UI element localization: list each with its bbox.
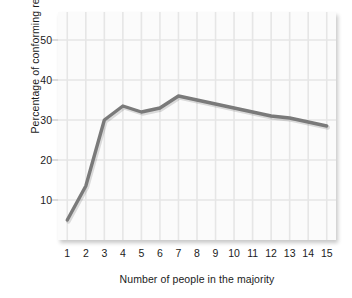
y-axis-tick-mark <box>52 80 58 81</box>
x-axis-tick-label: 15 <box>321 247 333 259</box>
x-axis-tick-label: 3 <box>101 247 107 259</box>
x-axis-tick-label: 10 <box>228 247 240 259</box>
x-axis-tick-label: 2 <box>83 247 89 259</box>
y-axis-tick-mark <box>52 200 58 201</box>
y-axis-tick-label: 10 <box>40 194 52 206</box>
x-axis-tick-label: 11 <box>247 247 258 259</box>
y-axis-tick-label: 20 <box>40 154 52 166</box>
y-axis-tick-label: 40 <box>40 74 52 86</box>
x-axis-tick-label: 8 <box>194 247 200 259</box>
plot-area <box>58 12 336 240</box>
plot-inner <box>58 12 336 240</box>
x-axis-tick-label: 9 <box>213 247 219 259</box>
y-axis-tick-mark <box>52 120 58 121</box>
y-axis-tick-label: 30 <box>40 114 52 126</box>
y-axis-tick-label: 50 <box>40 34 52 46</box>
x-axis-tick-label: 5 <box>138 247 144 259</box>
x-axis-tick-label: 14 <box>302 247 314 259</box>
x-axis-tick-label: 13 <box>284 247 296 259</box>
x-axis-tick-label: 1 <box>64 247 70 259</box>
y-axis-tick-column: 1020304050 <box>26 0 52 298</box>
chart-svg <box>58 12 336 240</box>
x-axis-tick-label: 12 <box>265 247 277 259</box>
y-axis-tick-mark <box>52 40 58 41</box>
y-axis-tick-mark <box>52 160 58 161</box>
conformity-line-chart: Percentage of conforming responses 10203… <box>0 0 352 298</box>
x-axis-tick-label: 7 <box>176 247 182 259</box>
x-axis-tick-label: 6 <box>157 247 163 259</box>
x-axis-tick-label: 4 <box>120 247 126 259</box>
x-axis-label: Number of people in the majority <box>58 273 336 285</box>
